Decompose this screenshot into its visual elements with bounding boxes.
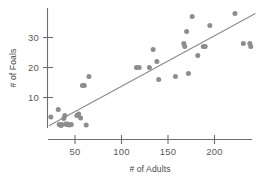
data-point bbox=[78, 115, 83, 120]
data-point bbox=[137, 65, 142, 70]
y-tick-label-20: 20 bbox=[28, 62, 39, 73]
data-point bbox=[86, 74, 91, 79]
data-point bbox=[56, 107, 61, 112]
y-axis-title: # of Foals bbox=[8, 49, 18, 88]
x-tick-label-150: 150 bbox=[160, 146, 176, 157]
data-point bbox=[248, 44, 253, 49]
data-point bbox=[182, 44, 187, 49]
data-point bbox=[147, 65, 152, 70]
data-point bbox=[207, 23, 212, 28]
data-point bbox=[186, 71, 191, 76]
data-point bbox=[156, 77, 161, 82]
data-point bbox=[241, 41, 246, 46]
scatter-plot-figure: 10 20 30 50 100 150 200 # of Foals # of … bbox=[0, 0, 260, 181]
data-point bbox=[232, 11, 237, 16]
data-point bbox=[154, 59, 159, 64]
data-point bbox=[48, 115, 53, 120]
y-tick-label-30: 30 bbox=[28, 32, 39, 43]
data-point bbox=[190, 14, 195, 19]
x-tick-label-200: 200 bbox=[206, 146, 222, 157]
data-point-group bbox=[48, 11, 253, 128]
x-tick-label-50: 50 bbox=[70, 146, 81, 157]
regression-trend-line bbox=[49, 14, 255, 126]
data-point bbox=[173, 74, 178, 79]
data-point bbox=[151, 47, 156, 52]
data-point bbox=[69, 122, 74, 127]
data-point bbox=[203, 44, 208, 49]
plot-canvas: 10 20 30 50 100 150 200 # of Foals # of … bbox=[0, 0, 260, 181]
x-axis-title: # of Adults bbox=[129, 164, 170, 174]
data-point bbox=[195, 53, 200, 58]
data-point bbox=[82, 83, 87, 88]
data-point bbox=[84, 123, 89, 128]
y-tick-label-10: 10 bbox=[28, 92, 39, 103]
data-point bbox=[62, 113, 67, 118]
data-point bbox=[184, 29, 189, 34]
x-tick-label-100: 100 bbox=[113, 146, 129, 157]
